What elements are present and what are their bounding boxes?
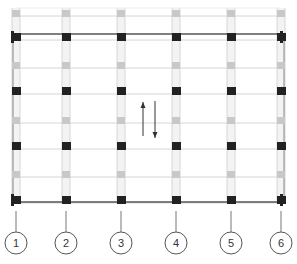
axis-label: 2 <box>63 237 69 249</box>
column-black <box>62 196 71 204</box>
column-black <box>117 87 126 95</box>
column-black <box>12 87 21 95</box>
column-gray <box>12 10 20 17</box>
column-black <box>172 196 181 204</box>
column-gray <box>277 10 285 17</box>
column-gray <box>277 171 285 178</box>
column-gray <box>117 10 125 17</box>
column-gray <box>117 62 125 69</box>
column-black <box>117 142 126 150</box>
column-black <box>172 142 181 150</box>
column-black <box>62 33 71 41</box>
column-black <box>62 87 71 95</box>
column-gray <box>227 10 235 17</box>
black-columns <box>11 31 286 206</box>
axis-label: 4 <box>173 237 179 249</box>
column-strips <box>12 8 285 202</box>
column-gray <box>12 117 20 124</box>
horizontal-gridlines <box>16 8 281 203</box>
column-black <box>12 142 21 150</box>
axis-label: 6 <box>278 237 284 249</box>
column-gray <box>172 62 180 69</box>
column-gray <box>62 171 70 178</box>
column-gray <box>117 117 125 124</box>
axis-label: 3 <box>118 237 124 249</box>
axis-label: 5 <box>228 237 234 249</box>
column-gray <box>227 171 235 178</box>
column-gray <box>12 171 20 178</box>
column-gray <box>172 117 180 124</box>
column-gray <box>277 117 285 124</box>
column-black <box>227 142 236 150</box>
column-black <box>227 33 236 41</box>
column-black <box>117 196 126 204</box>
corner-column-flange <box>280 31 283 43</box>
column-black <box>62 142 71 150</box>
column-gray <box>12 62 20 69</box>
column-gray <box>172 171 180 178</box>
load-arrows <box>141 101 158 138</box>
column-gray <box>62 62 70 69</box>
column-black <box>117 33 126 41</box>
structural-grid-diagram: 123456 <box>0 0 297 264</box>
column-black <box>277 142 286 150</box>
column-black <box>172 87 181 95</box>
arrow-down-icon <box>153 132 158 138</box>
column-gray <box>172 10 180 17</box>
column-gray <box>227 117 235 124</box>
column-gray <box>227 62 235 69</box>
column-black <box>227 196 236 204</box>
column-black <box>172 33 181 41</box>
corner-column-flange <box>11 31 14 43</box>
column-gray <box>62 10 70 17</box>
column-gray <box>62 117 70 124</box>
column-black <box>227 87 236 95</box>
column-gray <box>117 171 125 178</box>
corner-column-flange <box>280 194 283 206</box>
corner-column-flange <box>11 194 14 206</box>
arrow-up-icon <box>141 102 146 108</box>
axis-label: 1 <box>13 237 19 249</box>
column-black <box>277 87 286 95</box>
column-gray <box>277 62 285 69</box>
axis-bubbles: 123456 <box>5 211 292 254</box>
